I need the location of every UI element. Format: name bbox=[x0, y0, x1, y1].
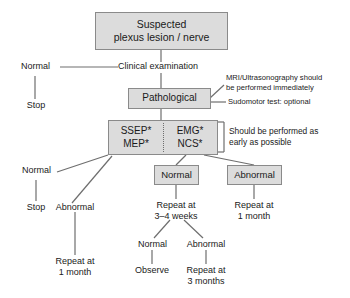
emg-ncs-half: EMG* NCS* bbox=[163, 121, 217, 154]
pathological-label: Pathological bbox=[142, 92, 196, 104]
emg-normal-label: Normal bbox=[161, 169, 192, 181]
early-performance-annotation: Should be performed as early as possible bbox=[229, 126, 318, 148]
repeat-3-4-weeks-line2: 3–4 weeks bbox=[146, 211, 206, 222]
early-performance-line1: Should be performed as bbox=[229, 126, 318, 137]
electrophysiology-test-box: SSEP* MEP* EMG* NCS* bbox=[108, 120, 218, 155]
ssep-normal-label: Normal bbox=[14, 165, 59, 176]
mep-label: MEP* bbox=[123, 138, 149, 151]
repeat-3-months-line2: 3 months bbox=[177, 276, 235, 287]
early-performance-line2: early as possible bbox=[229, 137, 318, 148]
ssep-abnormal-repeat-label: Repeat at 1 month bbox=[46, 256, 104, 278]
repeat-3-months-line1: Repeat at bbox=[177, 265, 235, 276]
repeat-3-months-label: Repeat at 3 months bbox=[177, 265, 235, 287]
stop-top-label: Stop bbox=[16, 100, 56, 111]
observe-label: Observe bbox=[126, 265, 178, 276]
repeat-3-4-weeks-line1: Repeat at bbox=[146, 200, 206, 211]
emg-abnormal-box: Abnormal bbox=[227, 165, 282, 185]
ssep-label: SSEP* bbox=[121, 125, 152, 138]
normal-top-label: Normal bbox=[13, 61, 58, 72]
emg-abnormal-label: Abnormal bbox=[234, 169, 275, 181]
mri-annotation-line2: be performed immediately bbox=[226, 83, 322, 93]
mri-annotation: MRI/Ultrasonography should be performed … bbox=[226, 73, 322, 93]
abnormal-repeat-line2: 1 month bbox=[225, 211, 283, 222]
abnormal-repeat-line1: Repeat at bbox=[225, 200, 283, 211]
clinical-examination-label: Clinical examination bbox=[118, 61, 198, 72]
repeat-3-4-weeks-label: Repeat at 3–4 weeks bbox=[146, 200, 206, 222]
ssep-repeat-line2: 1 month bbox=[46, 267, 104, 278]
suspected-lesion-line1: Suspected bbox=[137, 18, 187, 31]
emg-label: EMG* bbox=[177, 125, 204, 138]
test-box-divider bbox=[163, 123, 164, 152]
abnormal-repeat-1-month-label: Repeat at 1 month bbox=[225, 200, 283, 222]
ssep-abnormal-label: Abnormal bbox=[48, 202, 102, 213]
ssep-repeat-line1: Repeat at bbox=[46, 256, 104, 267]
suspected-lesion-box: Suspected plexus lesion / nerve bbox=[95, 12, 228, 50]
ssep-mep-half: SSEP* MEP* bbox=[109, 121, 163, 154]
emg-normal-box: Normal bbox=[154, 165, 199, 185]
sudomotor-annotation-text: Sudomotor test: optional bbox=[228, 97, 310, 107]
sudomotor-annotation: Sudomotor test: optional bbox=[228, 97, 310, 107]
flowchart-canvas: Suspected plexus lesion / nerve Clinical… bbox=[0, 0, 350, 298]
mri-annotation-line1: MRI/Ultrasonography should bbox=[226, 73, 322, 83]
followup-normal-label: Normal bbox=[130, 239, 175, 250]
followup-abnormal-label: Abnormal bbox=[179, 239, 233, 250]
ncs-label: NCS* bbox=[177, 138, 202, 151]
pathological-box: Pathological bbox=[128, 88, 211, 109]
suspected-lesion-line2: plexus lesion / nerve bbox=[114, 31, 210, 44]
